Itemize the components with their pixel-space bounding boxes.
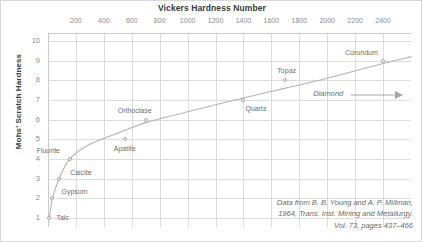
- data-point-marker: [57, 177, 61, 181]
- data-point-label: Corundum: [345, 49, 378, 56]
- data-point-label: Calcite: [70, 169, 91, 176]
- data-point-label: Topaz: [277, 67, 296, 74]
- y-tick-label: 5: [26, 134, 40, 143]
- data-point-marker: [68, 157, 72, 161]
- y-axis-label: Mohs' Scratch Hardness: [14, 42, 23, 162]
- data-point-label: Orthoclase: [118, 107, 152, 114]
- data-point-label: Gypsum: [61, 188, 87, 195]
- y-tick-label: 9: [26, 56, 40, 65]
- data-point-label: Quartz: [245, 105, 266, 112]
- data-point-label: Apatite: [114, 145, 136, 152]
- chart-title: Vickers Hardness Number: [1, 3, 422, 13]
- source-attribution-line: Data from B. B. Young and A. P. Millman,: [277, 197, 413, 209]
- y-tick-label: 7: [26, 95, 40, 104]
- curve-path: [49, 57, 411, 219]
- y-tick-label: 6: [26, 115, 40, 124]
- data-point-label: Fluorite: [37, 147, 60, 154]
- y-tick-label: 1: [26, 213, 40, 222]
- data-point-marker: [144, 118, 148, 122]
- diamond-arrow-icon: [351, 90, 405, 102]
- y-tick-label: 8: [26, 75, 40, 84]
- source-attribution-line: Vol. 73, pages 437–466: [277, 220, 413, 232]
- diamond-annotation-label: Diamond: [313, 89, 343, 98]
- data-point-label: Talc: [56, 214, 68, 221]
- data-point-marker: [381, 59, 385, 63]
- y-tick-label: 3: [26, 174, 40, 183]
- source-attribution: Data from B. B. Young and A. P. Millman,…: [277, 197, 413, 232]
- source-attribution-line: 1964, Trans. Inst. Mining and Metallurgy…: [277, 208, 413, 220]
- y-tick-label: 2: [26, 193, 40, 202]
- y-tick-label: 4: [26, 154, 40, 163]
- chart-figure: Vickers Hardness Number Mohs' Scratch Ha…: [0, 0, 422, 242]
- y-tick-label: 10: [26, 36, 40, 45]
- x-tick-label: 2400: [363, 17, 403, 24]
